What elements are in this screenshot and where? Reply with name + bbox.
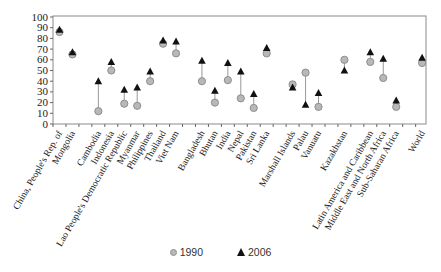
marker-2006	[392, 96, 400, 103]
category-label: World	[406, 129, 427, 155]
marker-2006	[367, 48, 375, 55]
marker-2006	[108, 58, 116, 65]
y-tick-label: 60	[37, 53, 49, 65]
marker-1990	[224, 77, 231, 84]
marker-2006	[211, 87, 219, 94]
legend: 1990 2006	[0, 246, 441, 258]
dumbbell-chart: 0102030405060708090100 China, People's R…	[0, 0, 441, 272]
marker-1990	[315, 103, 322, 110]
marker-1990	[237, 95, 244, 102]
marker-1990	[250, 104, 257, 111]
marker-2006	[315, 89, 323, 96]
y-tick-label: 90	[37, 21, 49, 33]
marker-1990	[95, 108, 102, 115]
marker-2006	[379, 55, 387, 62]
marker-2006	[133, 84, 141, 91]
marker-2006	[418, 54, 426, 61]
marker-1990	[211, 99, 218, 106]
marker-2006	[302, 101, 310, 108]
marker-2006	[172, 38, 180, 45]
marker-2006	[341, 67, 349, 74]
marker-1990	[302, 69, 309, 76]
chart-axes: 0102030405060708090100	[32, 11, 427, 130]
y-tick-label: 100	[32, 11, 49, 23]
marker-2006	[159, 37, 167, 44]
marker-1990	[108, 67, 115, 74]
data-markers	[56, 26, 426, 115]
y-tick-label: 70	[37, 43, 49, 55]
marker-1990	[198, 78, 205, 85]
y-tick-label: 30	[37, 85, 49, 97]
y-tick-label: 40	[37, 75, 49, 87]
y-tick-label: 20	[37, 96, 49, 108]
marker-2006	[237, 68, 245, 75]
marker-1990	[121, 100, 128, 107]
y-tick-label: 10	[37, 107, 49, 119]
legend-item-1990: 1990	[170, 246, 203, 258]
marker-2006	[250, 90, 258, 97]
legend-item-2006: 2006	[237, 246, 271, 258]
y-tick-label: 50	[37, 64, 49, 76]
y-tick-label: 0	[43, 118, 49, 130]
marker-2006	[263, 44, 271, 51]
marker-1990	[367, 58, 374, 65]
marker-1990	[134, 102, 141, 109]
marker-1990	[393, 103, 400, 110]
marker-2006	[224, 59, 232, 66]
marker-2006	[95, 77, 103, 84]
category-label: China, People's Rep. of	[11, 128, 65, 211]
legend-label-2006: 2006	[248, 246, 271, 258]
marker-2006	[198, 57, 206, 64]
marker-2006	[146, 68, 154, 75]
marker-2006	[120, 86, 128, 93]
circle-marker-icon	[170, 249, 177, 256]
y-tick-label: 80	[37, 32, 49, 44]
category-labels: China, People's Rep. ofMongoliaCambodiaI…	[11, 128, 427, 248]
marker-1990	[147, 78, 154, 85]
marker-1990	[172, 50, 179, 57]
marker-1990	[341, 56, 348, 63]
triangle-marker-icon	[237, 248, 245, 256]
legend-label-1990: 1990	[180, 246, 203, 258]
marker-1990	[380, 74, 387, 81]
